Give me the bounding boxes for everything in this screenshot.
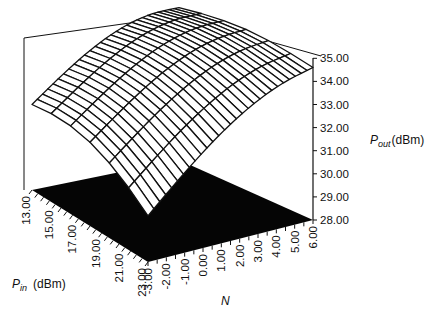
y-tick-label: 0.00 bbox=[197, 254, 209, 276]
z-tick-label: 34.00 bbox=[320, 75, 349, 87]
z-tick-label: 28.00 bbox=[320, 214, 349, 226]
y-tick-label: 1.00 bbox=[215, 249, 227, 271]
x-tick-label: 17.00 bbox=[66, 225, 78, 254]
x-tick-label: 15.00 bbox=[43, 210, 55, 239]
surface-chart: 35.0034.0033.0032.0031.0030.0029.0028.00… bbox=[0, 0, 432, 322]
x-tick-label: 21.00 bbox=[113, 254, 125, 283]
x-tick-label: 19.00 bbox=[90, 239, 102, 268]
z-tick-label: 30.00 bbox=[320, 168, 349, 180]
y-tick-label: 6.00 bbox=[307, 226, 319, 248]
y-tick-label: -2.00 bbox=[160, 263, 172, 289]
z-tick-label: 29.00 bbox=[320, 191, 349, 203]
x-axis-title: Pin(dBm) bbox=[12, 277, 66, 293]
y-axis-title: N bbox=[221, 294, 230, 308]
y-tick-label: 5.00 bbox=[289, 231, 301, 253]
x-tick-label: 13.00 bbox=[20, 196, 32, 225]
z-tick-label: 35.00 bbox=[320, 52, 349, 64]
y-tick-label: -3.00 bbox=[142, 268, 154, 294]
z-axis-title: Pout(dBm) bbox=[370, 133, 424, 149]
y-tick-label: 3.00 bbox=[252, 240, 264, 262]
z-tick-label: 31.00 bbox=[320, 145, 349, 157]
y-tick-label: -1.00 bbox=[179, 259, 191, 285]
y-tick-label: 2.00 bbox=[234, 245, 246, 267]
z-tick-label: 33.00 bbox=[320, 99, 349, 111]
y-tick-label: 4.00 bbox=[270, 235, 282, 257]
z-tick-label: 32.00 bbox=[320, 122, 349, 134]
z-axis: 35.0034.0033.0032.0031.0030.0029.0028.00… bbox=[313, 52, 424, 226]
